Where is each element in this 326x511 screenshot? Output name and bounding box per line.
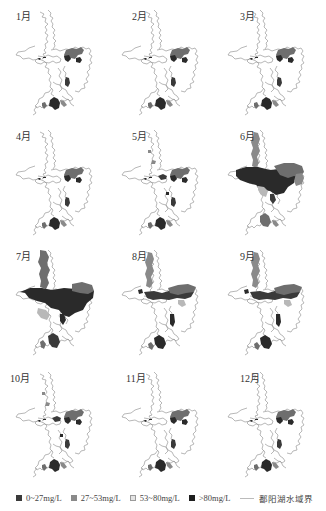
month-label: 4月 <box>16 128 31 143</box>
map-panel-sep: 9月 <box>214 240 322 361</box>
legend-item-53-80: 53~80mg/L <box>130 493 180 503</box>
legend-item-boundary: 鄱阳湖水域界 <box>240 492 313 504</box>
month-label: 9月 <box>240 248 255 263</box>
legend-label: 鄱阳湖水域界 <box>259 492 313 504</box>
lake-map-may <box>108 120 216 241</box>
lake-map-aug <box>108 240 216 361</box>
swatch-0-27 <box>16 495 22 501</box>
lake-map-sep <box>214 240 322 361</box>
legend-label: 27~53mg/L <box>81 493 121 503</box>
legend-item-27-53: 27~53mg/L <box>71 493 121 503</box>
map-panel-jun: 6月 <box>214 120 322 241</box>
map-panel-dec: 12月 <box>214 362 322 483</box>
map-panel-mar: 3月 <box>214 0 322 121</box>
lake-map-jun <box>214 120 322 241</box>
swatch-53-80 <box>130 495 136 501</box>
map-panel-jan: 1月 <box>2 0 110 121</box>
legend-label: 0~27mg/L <box>26 493 62 503</box>
month-label: 2月 <box>132 8 147 23</box>
legend: 0~27mg/L 27~53mg/L 53~80mg/L >80mg/L 鄱阳湖… <box>0 488 326 508</box>
month-label: 5月 <box>132 128 147 143</box>
month-label: 7月 <box>16 248 31 263</box>
map-panel-may: 5月 <box>108 120 216 241</box>
map-panel-jul: 7月 <box>2 240 110 361</box>
lake-map-feb <box>108 0 216 121</box>
legend-item-0-27: 0~27mg/L <box>16 493 62 503</box>
month-label: 3月 <box>240 8 255 23</box>
month-label: 6月 <box>240 128 255 143</box>
map-panel-feb: 2月 <box>108 0 216 121</box>
lake-map-dec <box>214 362 322 483</box>
month-label: 12月 <box>240 370 260 385</box>
lake-map-nov <box>108 362 216 483</box>
map-panel-aug: 8月 <box>108 240 216 361</box>
map-panel-oct: 10月 <box>2 362 110 483</box>
legend-label: >80mg/L <box>199 493 231 503</box>
month-label: 11月 <box>126 370 146 385</box>
swatch-gt-80 <box>189 495 195 501</box>
month-label: 1月 <box>16 8 31 23</box>
legend-label: 53~80mg/L <box>140 493 180 503</box>
boundary-line-icon <box>240 498 254 499</box>
monthly-map-grid: 1月 2月 3月 4月 5月 6月 7月 8月 9月 10月 11月 <box>0 0 326 484</box>
map-panel-nov: 11月 <box>108 362 216 483</box>
lake-map-mar <box>214 0 322 121</box>
legend-item-gt-80: >80mg/L <box>189 493 231 503</box>
swatch-27-53 <box>71 495 77 501</box>
month-label: 10月 <box>10 370 30 385</box>
map-panel-apr: 4月 <box>2 120 110 241</box>
month-label: 8月 <box>132 248 147 263</box>
